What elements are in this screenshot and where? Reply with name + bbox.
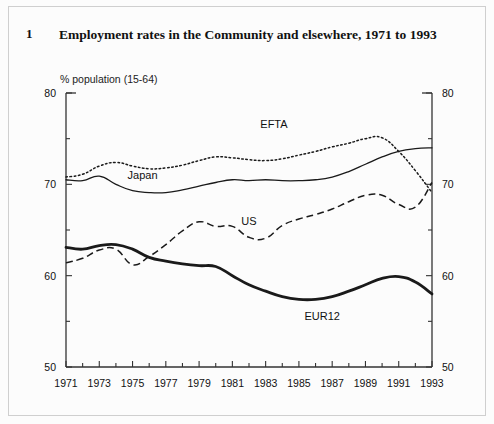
series-annotation-efta: EFTA	[260, 118, 288, 130]
line-chart-plot: EFTAJapanUSEUR12 80706050807060501971197…	[0, 0, 494, 424]
x-axis-label-1991: 1991	[387, 377, 411, 389]
series-line-japan	[66, 148, 432, 193]
x-axis-label-1979: 1979	[187, 377, 211, 389]
y-axis-right-label-80: 80	[442, 87, 454, 99]
series-annotation-eur12: EUR12	[304, 310, 339, 322]
y-axis-left-label-50: 50	[44, 361, 56, 373]
y-axis-left-label-80: 80	[44, 87, 56, 99]
series-line-efta	[66, 136, 432, 192]
series-annotation-us: US	[241, 215, 256, 227]
y-axis-right-label-60: 60	[442, 270, 454, 282]
x-axis-label-1993: 1993	[420, 377, 444, 389]
x-axis-label-1985: 1985	[287, 377, 311, 389]
y-axis-left-label-60: 60	[44, 270, 56, 282]
y-axis-right-label-70: 70	[442, 178, 454, 190]
x-axis-label-1975: 1975	[121, 377, 145, 389]
x-axis-label-1971: 1971	[54, 377, 78, 389]
y-axis-right-label-50: 50	[442, 361, 454, 373]
x-axis-label-1983: 1983	[254, 377, 278, 389]
axes-group	[66, 93, 432, 367]
x-axis-label-1973: 1973	[88, 377, 112, 389]
x-axis-label-1987: 1987	[321, 377, 345, 389]
series-annotation-japan: Japan	[128, 169, 158, 181]
x-axis-label-1977: 1977	[154, 377, 178, 389]
figure-root: 1 Employment rates in the Community and …	[0, 0, 494, 424]
x-axis-label-1981: 1981	[221, 377, 245, 389]
series-annotations-group: EFTAJapanUSEUR12	[128, 118, 340, 323]
x-axis-label-1989: 1989	[354, 377, 378, 389]
y-axis-left-label-70: 70	[44, 178, 56, 190]
